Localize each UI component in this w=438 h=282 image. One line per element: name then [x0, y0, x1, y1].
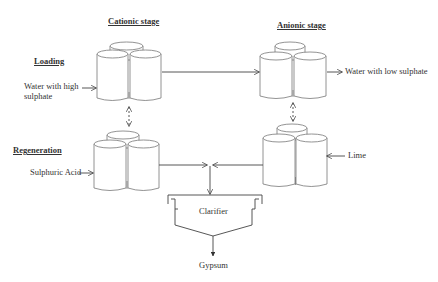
cationic-stage-heading: Cationic stage: [108, 16, 159, 26]
regeneration-heading: Regeneration: [13, 145, 62, 155]
process-flow-diagram: [0, 0, 438, 282]
cationic-loading-tanks: [97, 42, 161, 101]
cationic-regeneration-tanks: [94, 131, 159, 191]
lime-label: Lime: [348, 151, 366, 161]
sulphuric-acid-label: Sulphuric Acid: [30, 168, 81, 178]
anionic-loading-tanks: [260, 42, 326, 99]
gypsum-label: Gypsum: [199, 261, 228, 271]
anionic-regeneration-tanks: [263, 124, 327, 187]
water-low-sulphate-label: Water with low sulphate: [345, 67, 428, 77]
water-high-line2: sulphate: [24, 92, 79, 102]
water-high-sulphate-label: Water with high sulphate: [24, 82, 79, 102]
loading-heading: Loading: [34, 56, 64, 66]
clarifier-label: Clarifier: [199, 207, 228, 217]
anionic-stage-heading: Anionic stage: [277, 20, 326, 30]
